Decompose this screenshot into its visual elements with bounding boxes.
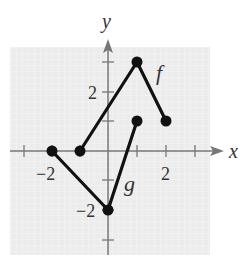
graph-canvas: y x f g −2 2 2 −2 — [0, 0, 248, 263]
x-tick-label-neg2: −2 — [36, 164, 55, 184]
y-axis-label: y — [100, 10, 111, 33]
y-tick-label-2: 2 — [88, 83, 97, 103]
series-g-label: g — [124, 171, 135, 196]
y-tick-label-neg2: −2 — [76, 201, 95, 221]
x-axis-label: x — [228, 140, 238, 162]
x-tick-label-2: 2 — [161, 164, 170, 184]
